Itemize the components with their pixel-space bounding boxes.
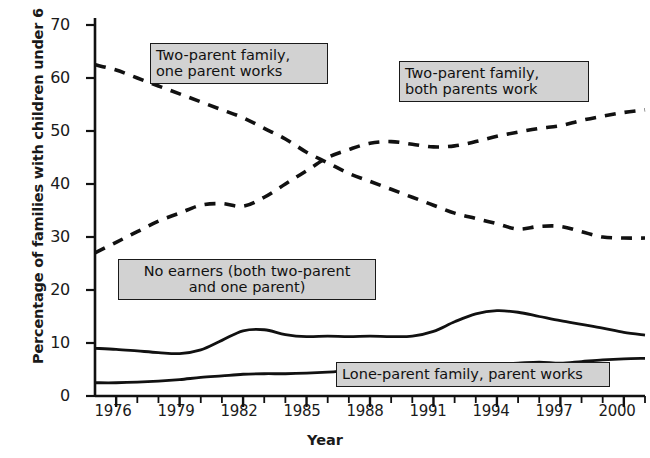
series-line-2 (95, 311, 645, 354)
series-lines (95, 65, 645, 383)
callout-no-earners: No earners (both two-parent and one pare… (118, 259, 376, 300)
callout-two-parent-one-works: Two-parent family, one parent works (150, 43, 328, 84)
chart-figure: Percentage of families with children und… (0, 0, 650, 458)
series-line-1 (95, 110, 645, 253)
y-tick-marks (86, 25, 95, 396)
callout-lone-parent-works: Lone-parent family, parent works (336, 362, 610, 387)
x-tick-marks (116, 396, 645, 407)
callout-two-parent-both-work: Two-parent family, both parents work (399, 61, 589, 102)
